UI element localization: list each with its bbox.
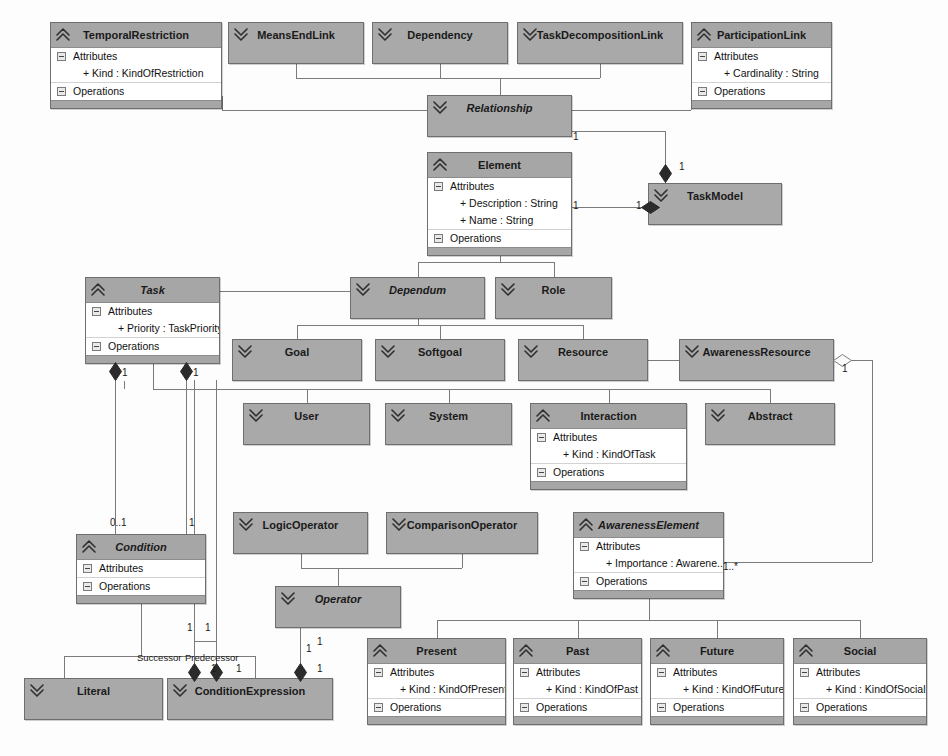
operations-section-temporal-restriction[interactable]: Operations bbox=[51, 82, 221, 100]
class-header-relationship[interactable]: Relationship bbox=[428, 96, 571, 120]
class-box-goal[interactable]: Goal bbox=[232, 339, 362, 381]
class-header-operator[interactable]: Operator bbox=[276, 587, 400, 611]
operations-section-present[interactable]: Operations bbox=[368, 698, 505, 716]
chevron-up-double-icon[interactable] bbox=[656, 643, 670, 659]
class-header-dependum[interactable]: Dependum bbox=[351, 278, 484, 302]
class-header-condition[interactable]: Condition bbox=[77, 535, 205, 560]
class-header-condition-expression[interactable]: ConditionExpression bbox=[168, 679, 332, 703]
chevron-down-double-icon[interactable] bbox=[391, 408, 405, 424]
class-box-interaction[interactable]: InteractionAttributes+ Kind : KindOfTask… bbox=[530, 403, 687, 490]
class-header-social[interactable]: Social bbox=[794, 639, 926, 664]
class-header-abstract[interactable]: Abstract bbox=[706, 404, 834, 428]
collapse-operations-icon[interactable] bbox=[800, 703, 809, 712]
collapse-operations-icon[interactable] bbox=[580, 577, 589, 586]
class-box-system[interactable]: System bbox=[385, 403, 512, 445]
class-box-temporal-restriction[interactable]: TemporalRestrictionAttributes+ Kind : Ki… bbox=[50, 22, 222, 109]
chevron-down-double-icon[interactable] bbox=[523, 27, 537, 43]
collapse-attributes-icon[interactable] bbox=[580, 542, 589, 551]
chevron-up-double-icon[interactable] bbox=[579, 517, 593, 533]
chevron-down-double-icon[interactable] bbox=[249, 408, 263, 424]
class-box-condition[interactable]: ConditionAttributesOperations bbox=[76, 534, 206, 604]
attributes-section-task[interactable]: Attributes bbox=[86, 303, 219, 320]
operations-section-social[interactable]: Operations bbox=[794, 698, 926, 716]
class-box-dependency[interactable]: Dependency bbox=[372, 22, 508, 64]
attributes-section-awareness-element[interactable]: Attributes bbox=[574, 538, 723, 555]
class-header-interaction[interactable]: Interaction bbox=[531, 404, 686, 429]
chevron-up-double-icon[interactable] bbox=[799, 643, 813, 659]
class-box-awareness-resource[interactable]: AwarenessResource bbox=[679, 339, 834, 381]
collapse-attributes-icon[interactable] bbox=[698, 52, 707, 61]
class-header-system[interactable]: System bbox=[386, 404, 511, 428]
class-header-task-model[interactable]: TaskModel bbox=[649, 184, 781, 208]
operations-section-participation-link[interactable]: Operations bbox=[692, 82, 831, 100]
collapse-attributes-icon[interactable] bbox=[537, 433, 546, 442]
class-header-user[interactable]: User bbox=[244, 404, 369, 428]
attributes-section-future[interactable]: Attributes bbox=[651, 664, 783, 681]
chevron-up-double-icon[interactable] bbox=[373, 643, 387, 659]
chevron-down-double-icon[interactable] bbox=[381, 344, 395, 360]
collapse-operations-icon[interactable] bbox=[698, 87, 707, 96]
class-header-logic-operator[interactable]: LogicOperator bbox=[234, 513, 367, 537]
chevron-down-double-icon[interactable] bbox=[356, 282, 370, 298]
class-box-comparison-operator[interactable]: ComparisonOperator bbox=[386, 512, 538, 554]
chevron-down-double-icon[interactable] bbox=[239, 517, 253, 533]
class-box-resource[interactable]: Resource bbox=[518, 339, 648, 381]
chevron-down-double-icon[interactable] bbox=[392, 517, 406, 533]
class-header-awareness-element[interactable]: AwarenessElement bbox=[574, 513, 723, 538]
collapse-operations-icon[interactable] bbox=[657, 703, 666, 712]
chevron-down-double-icon[interactable] bbox=[685, 344, 699, 360]
operations-section-element[interactable]: Operations bbox=[428, 229, 571, 247]
class-header-temporal-restriction[interactable]: TemporalRestriction bbox=[51, 23, 221, 48]
attributes-section-past[interactable]: Attributes bbox=[514, 664, 641, 681]
class-box-user[interactable]: User bbox=[243, 403, 370, 445]
class-header-awareness-resource[interactable]: AwarenessResource bbox=[680, 340, 833, 364]
operations-section-task[interactable]: Operations bbox=[86, 337, 219, 355]
class-header-task-decomposition-link[interactable]: TaskDecompositionLink bbox=[518, 23, 682, 47]
class-header-comparison-operator[interactable]: ComparisonOperator bbox=[387, 513, 537, 537]
class-box-operator[interactable]: Operator bbox=[275, 586, 401, 628]
class-box-task-decomposition-link[interactable]: TaskDecompositionLink bbox=[517, 22, 683, 64]
class-box-softgoal[interactable]: Softgoal bbox=[375, 339, 505, 381]
chevron-down-double-icon[interactable] bbox=[524, 344, 538, 360]
class-box-past[interactable]: PastAttributes+ Kind : KindOfPastOperati… bbox=[513, 638, 642, 725]
class-header-dependency[interactable]: Dependency bbox=[373, 23, 507, 47]
class-box-element[interactable]: ElementAttributes+ Description : String+… bbox=[427, 152, 572, 256]
chevron-up-double-icon[interactable] bbox=[433, 157, 447, 173]
collapse-operations-icon[interactable] bbox=[83, 582, 92, 591]
chevron-up-double-icon[interactable] bbox=[56, 27, 70, 43]
operations-section-condition[interactable]: Operations bbox=[77, 577, 205, 595]
class-header-means-end-link[interactable]: MeansEndLink bbox=[229, 23, 363, 47]
collapse-attributes-icon[interactable] bbox=[83, 564, 92, 573]
operations-section-interaction[interactable]: Operations bbox=[531, 463, 686, 481]
class-header-resource[interactable]: Resource bbox=[519, 340, 647, 364]
collapse-attributes-icon[interactable] bbox=[434, 182, 443, 191]
operations-section-past[interactable]: Operations bbox=[514, 698, 641, 716]
class-box-abstract[interactable]: Abstract bbox=[705, 403, 835, 445]
attributes-section-present[interactable]: Attributes bbox=[368, 664, 505, 681]
class-header-past[interactable]: Past bbox=[514, 639, 641, 664]
collapse-attributes-icon[interactable] bbox=[92, 307, 101, 316]
operations-section-awareness-element[interactable]: Operations bbox=[574, 572, 723, 590]
collapse-operations-icon[interactable] bbox=[57, 87, 66, 96]
class-header-role[interactable]: Role bbox=[496, 278, 611, 302]
collapse-attributes-icon[interactable] bbox=[520, 668, 529, 677]
collapse-operations-icon[interactable] bbox=[520, 703, 529, 712]
class-header-participation-link[interactable]: ParticipationLink bbox=[692, 23, 831, 48]
collapse-operations-icon[interactable] bbox=[537, 468, 546, 477]
class-header-softgoal[interactable]: Softgoal bbox=[376, 340, 504, 364]
attributes-section-temporal-restriction[interactable]: Attributes bbox=[51, 48, 221, 65]
collapse-operations-icon[interactable] bbox=[374, 703, 383, 712]
chevron-down-double-icon[interactable] bbox=[173, 683, 187, 699]
collapse-attributes-icon[interactable] bbox=[57, 52, 66, 61]
chevron-up-double-icon[interactable] bbox=[697, 27, 711, 43]
class-box-task-model[interactable]: TaskModel bbox=[648, 183, 782, 225]
class-header-element[interactable]: Element bbox=[428, 153, 571, 178]
class-header-future[interactable]: Future bbox=[651, 639, 783, 664]
attributes-section-element[interactable]: Attributes bbox=[428, 178, 571, 195]
attributes-section-participation-link[interactable]: Attributes bbox=[692, 48, 831, 65]
class-box-means-end-link[interactable]: MeansEndLink bbox=[228, 22, 364, 64]
class-box-dependum[interactable]: Dependum bbox=[350, 277, 485, 319]
class-box-task[interactable]: TaskAttributes+ Priority : TaskPriorityO… bbox=[85, 277, 220, 364]
class-box-condition-expression[interactable]: ConditionExpression bbox=[167, 678, 333, 720]
class-header-literal[interactable]: Literal bbox=[25, 679, 162, 703]
